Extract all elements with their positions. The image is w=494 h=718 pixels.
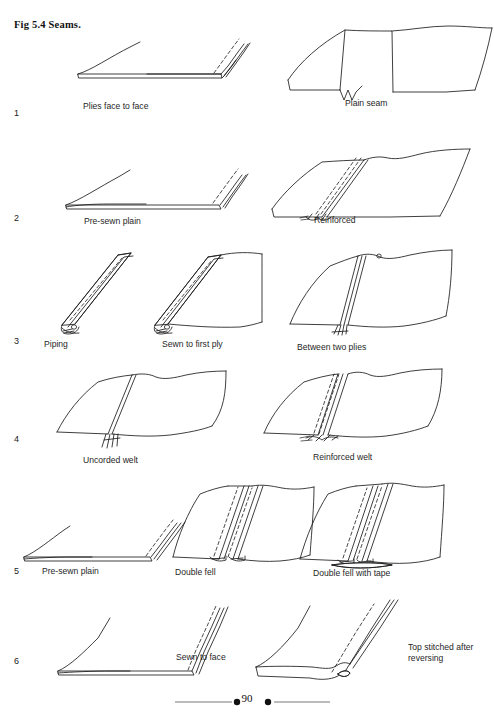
caption-top-stitched-after-reversing: Top stitched after reversing [408,642,473,664]
diagram-reinforced-welt [264,369,442,441]
row-number-3: 3 [14,336,19,346]
page-title: Fig 5.4 Seams. [14,19,81,30]
diagram-between-two-plies [290,250,452,335]
diagram-double-fell-with-tape [300,483,444,568]
seam-illustrations [0,0,494,718]
caption-pre-sewn-plain-2: Pre-sewn plain [84,216,141,227]
diagram-sewn-to-face [58,606,228,675]
caption-plies-face-to-face: Plies face to face [83,101,148,112]
page-number: 90 [0,692,494,704]
caption-sewn-to-first-ply: Sewn to first ply [162,339,223,350]
caption-piping: Piping [44,339,68,350]
caption-uncorded-welt: Uncorded welt [83,455,138,466]
diagram-uncorded-welt [57,371,226,448]
caption-pre-sewn-plain-5: Pre-sewn plain [42,566,99,577]
caption-between-two-plies: Between two plies [297,342,366,353]
row-number-6: 6 [14,656,19,666]
diagram-reinforced [272,149,470,220]
diagram-sewn-to-first-ply [154,253,262,334]
figure-page: Fig 5.4 Seams. [0,0,494,718]
diagram-plies-face-to-face [78,39,250,78]
row-number-1: 1 [14,108,19,118]
caption-double-fell-with-tape: Double fell with tape [313,568,390,579]
caption-reinforced-welt: Reinforced welt [313,452,372,463]
row-number-4: 4 [14,434,19,444]
caption-reinforced: Reinforced [314,215,356,226]
diagram-plain-seam [288,26,492,100]
diagram-piping [61,253,133,334]
diagram-pre-sewn-plain-2 [66,169,248,209]
diagram-top-stitched-after-reversing [256,600,398,679]
caption-plain-seam: Plain seam [345,98,388,109]
row-number-2: 2 [14,213,19,223]
diagram-double-fell [173,485,314,561]
caption-sewn-to-face: Sewn to face [176,652,226,663]
caption-double-fell: Double fell [175,567,216,578]
row-number-5: 5 [14,566,19,576]
diagram-pre-sewn-plain-5 [24,520,185,561]
